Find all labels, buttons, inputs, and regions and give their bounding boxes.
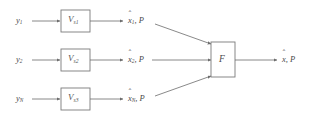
fused-estimate-label: ˆx, P <box>282 55 295 64</box>
local-filter-block-label-3: Vs3 <box>68 93 78 102</box>
block-diagram: y1 Vs1 ˆx1, P y2 Vs2 ˆx2, P yN Vs3 ˆxN, … <box>0 0 310 120</box>
input-label-row-2: y2 <box>16 55 22 64</box>
local-estimate-label-2: ˆx2, P <box>128 55 144 64</box>
local-filter-block-label-2: Vs2 <box>68 54 78 63</box>
hat-accent-icon: ˆ <box>283 51 285 58</box>
input-label-row-3: yN <box>16 94 23 103</box>
row-1-connectors <box>32 10 211 44</box>
local-estimate-label-3: ˆxN, P <box>128 94 145 103</box>
row-2-connectors <box>32 49 211 71</box>
hat-accent-icon: ˆ <box>129 12 131 19</box>
hat-accent-icon: ˆ <box>129 51 131 58</box>
hat-accent-icon: ˆ <box>129 90 131 97</box>
fusion-block-label: F <box>219 55 225 65</box>
local-estimate-label-1: ˆx1, P <box>128 16 144 25</box>
local-filter-block-label-1: Vs1 <box>68 15 78 24</box>
row-3-connectors <box>32 76 211 110</box>
diagram-connectors <box>0 0 310 120</box>
input-label-row-1: y1 <box>16 16 22 25</box>
